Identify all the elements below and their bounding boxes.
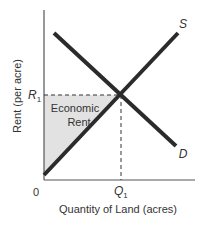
y-axis-label: Rent (per acre) [11, 59, 23, 133]
x-axis-label: Quantity of Land (acres) [59, 203, 177, 215]
demand-label: D [179, 147, 188, 161]
supply-label: S [179, 17, 187, 31]
economic-rent-chart: S D R1 Q1 0 Economic Rent Quantity of La… [0, 0, 205, 227]
economic-rent-label-line1: Economic [51, 102, 100, 114]
q1-label: Q1 [114, 184, 128, 200]
origin-label: 0 [33, 186, 39, 198]
economic-rent-label-line2: Rent [67, 116, 90, 128]
r1-label: R1 [28, 88, 42, 104]
